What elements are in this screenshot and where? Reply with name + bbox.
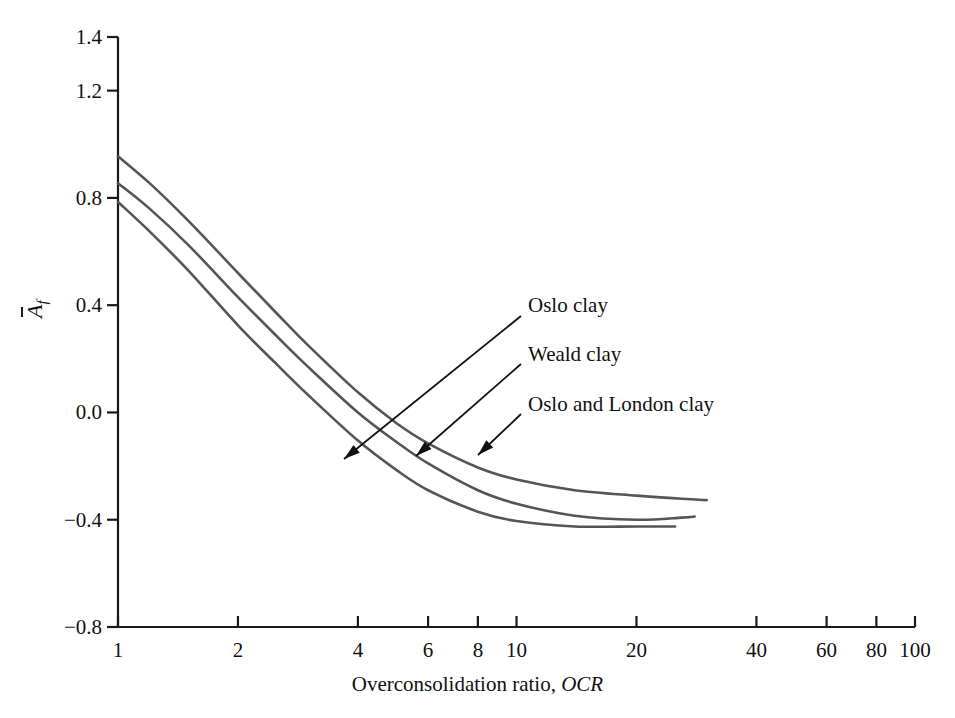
x-tick-label: 1 bbox=[113, 638, 124, 663]
y-tick-label: 1.4 bbox=[40, 25, 102, 50]
x-tick-label: 10 bbox=[506, 638, 527, 663]
x-tick-label: 80 bbox=[866, 638, 887, 663]
chart-figure: −0.8−0.40.00.40.81.21.4 1246810204060801… bbox=[0, 0, 955, 718]
x-tick-label: 6 bbox=[423, 638, 434, 663]
annotation-label-2: Weald clay bbox=[528, 342, 621, 367]
plot-canvas bbox=[0, 0, 955, 718]
x-tick-label: 100 bbox=[899, 638, 931, 663]
y-tick-label: −0.4 bbox=[40, 507, 102, 532]
axis-ticks bbox=[107, 37, 915, 627]
y-tick-label: 1.2 bbox=[40, 78, 102, 103]
y-axis-title: Af bbox=[22, 300, 51, 318]
x-tick-label: 4 bbox=[353, 638, 364, 663]
axis-lines bbox=[118, 37, 915, 627]
x-tick-label: 40 bbox=[746, 638, 767, 663]
x-tick-label: 2 bbox=[233, 638, 244, 663]
y-axis-title-letter: A bbox=[22, 305, 48, 318]
x-tick-label: 8 bbox=[473, 638, 484, 663]
x-axis-title-italic: OCR bbox=[561, 672, 603, 696]
annotation-label-1: Oslo clay bbox=[528, 293, 608, 318]
y-tick-label: 0.8 bbox=[40, 185, 102, 210]
x-axis-title: Overconsolidation ratio, OCR bbox=[0, 672, 955, 697]
annotation-arrows bbox=[344, 316, 521, 459]
y-tick-label: 0.0 bbox=[40, 400, 102, 425]
curve-oslo-clay bbox=[118, 156, 707, 500]
annotation-leader-line bbox=[416, 364, 521, 456]
x-tick-label: 20 bbox=[626, 638, 647, 663]
y-tick-label: −0.8 bbox=[40, 615, 102, 640]
x-tick-label: 60 bbox=[816, 638, 837, 663]
annotation-label-3: Oslo and London clay bbox=[528, 392, 714, 417]
x-axis-title-text: Overconsolidation ratio, bbox=[352, 672, 556, 696]
